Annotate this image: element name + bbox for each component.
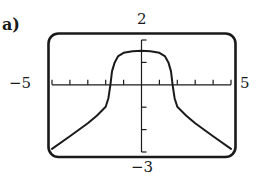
axes — [52, 40, 231, 152]
plot-area — [0, 0, 256, 178]
